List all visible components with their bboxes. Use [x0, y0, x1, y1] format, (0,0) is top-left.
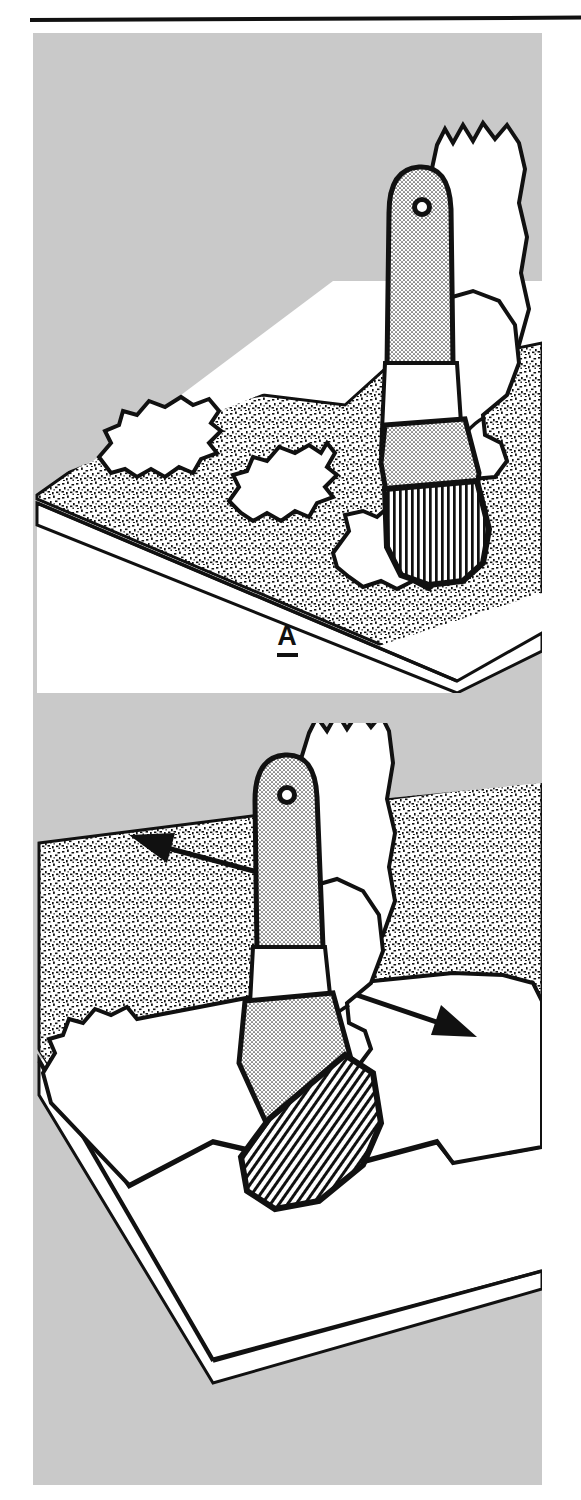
panel-a-illustration	[33, 33, 542, 693]
panel-a-caption-letter: A	[277, 623, 298, 657]
figure-plate: A	[33, 33, 542, 1485]
tool-blade-a	[385, 481, 489, 585]
panel-b: B 5	[33, 723, 542, 1485]
panel-b-illustration	[33, 723, 542, 1485]
panel-a-svg	[33, 33, 542, 693]
panel-a-caption: A	[33, 623, 542, 657]
handle-rivet-b	[280, 788, 295, 803]
handle-rivet-a	[415, 200, 430, 215]
panel-b-svg	[33, 723, 542, 1485]
panel-a: A	[33, 33, 542, 693]
header-rule	[30, 16, 581, 22]
figure-page: A	[0, 0, 581, 1500]
